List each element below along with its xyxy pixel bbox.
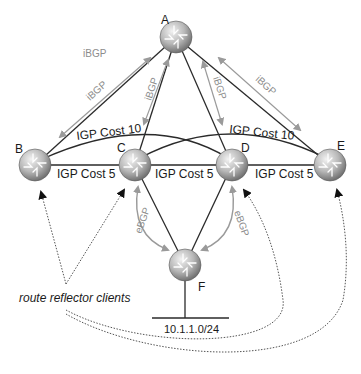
ibgp-label-a-b: iBGP — [84, 78, 109, 102]
router-label-c: C — [117, 141, 126, 155]
igp-label-c-d: IGP Cost 5 — [155, 167, 214, 181]
ebgp-label-c-f: eBGP — [133, 206, 153, 235]
router-f[interactable] — [169, 249, 201, 281]
router-e[interactable] — [314, 149, 346, 181]
igp-label-b-c: IGP Cost 5 — [57, 167, 116, 181]
igp-label-b-d: IGP Cost 10 — [76, 121, 143, 143]
link-a-e — [176, 37, 330, 165]
router-b[interactable] — [19, 149, 51, 181]
igp-label-d-e: IGP Cost 5 — [255, 167, 314, 181]
route-reflector-clients-label: route reflector clients — [19, 291, 130, 305]
router-label-f: F — [198, 280, 205, 294]
network-diagram: A B C D E F IGP Cost 5 IGP Cost 5 IGP Co… — [0, 0, 361, 374]
ebgp-label-d-f: eBGP — [232, 209, 252, 238]
ibgp-arrow-a-e — [219, 58, 300, 130]
network-label: 10.1.1.0/24 — [164, 323, 219, 335]
router-label-e: E — [337, 139, 345, 153]
ibgp-label-a-e: iBGP — [254, 73, 279, 97]
router-label-d: D — [241, 141, 250, 155]
router-label-b: B — [15, 142, 23, 156]
router-label-a: A — [161, 13, 169, 27]
ibgp-title-label: iBGP — [83, 48, 107, 59]
igp-label-c-e: IGP Cost 10 — [229, 122, 296, 143]
